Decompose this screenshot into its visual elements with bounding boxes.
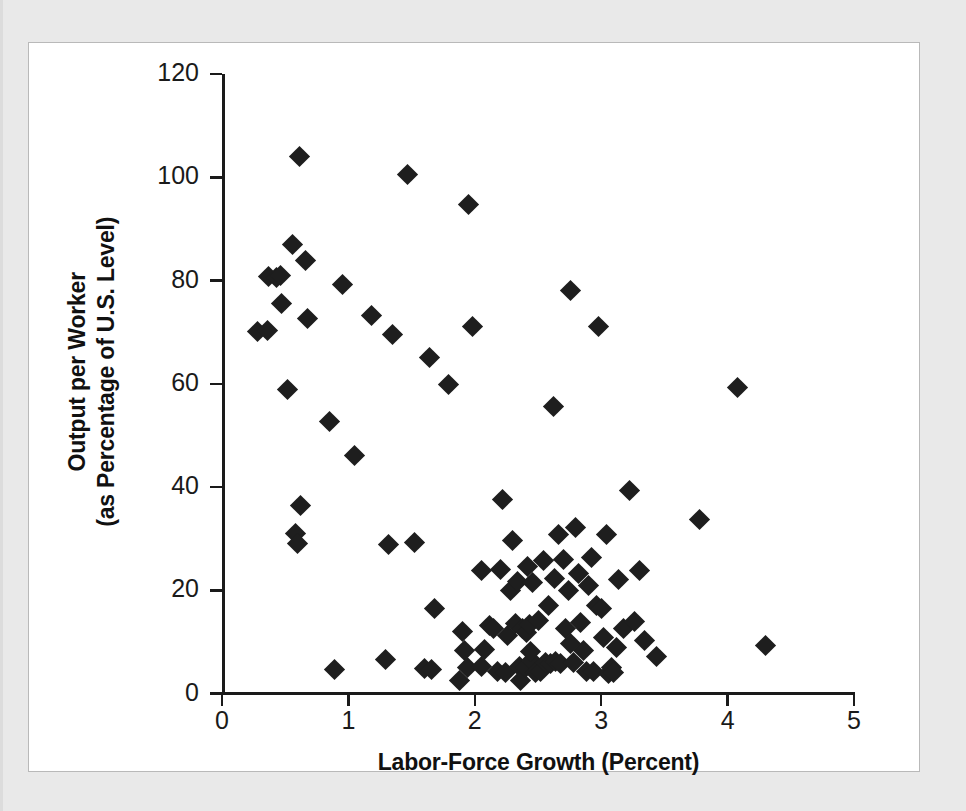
data-point bbox=[344, 445, 365, 466]
y-axis-title-line-2: (as Percentage of U.S. Level) bbox=[92, 112, 121, 632]
data-point bbox=[646, 646, 667, 667]
y-tick-label-120: 120 bbox=[79, 60, 199, 85]
data-point bbox=[588, 316, 609, 337]
data-point bbox=[324, 659, 345, 680]
x-tick-label-0: 0 bbox=[192, 708, 252, 733]
data-point bbox=[618, 479, 639, 500]
x-axis-line bbox=[222, 692, 855, 695]
data-point bbox=[288, 146, 309, 167]
x-tick-4 bbox=[726, 694, 729, 706]
y-tick-20 bbox=[210, 589, 222, 592]
data-point bbox=[397, 164, 418, 185]
data-point bbox=[295, 250, 316, 271]
data-point bbox=[755, 635, 776, 656]
y-axis-title-line-1: Output per Worker bbox=[63, 112, 92, 632]
data-point bbox=[271, 293, 292, 314]
data-point bbox=[580, 547, 601, 568]
data-point bbox=[474, 638, 495, 659]
data-point bbox=[319, 411, 340, 432]
data-point bbox=[277, 379, 298, 400]
data-point bbox=[608, 569, 629, 590]
data-point bbox=[489, 559, 510, 580]
x-axis-title: Labor-Force Growth (Percent) bbox=[222, 749, 855, 776]
data-point bbox=[471, 560, 492, 581]
scatter-plot: 020406080100120 012345 Labor-Force Growt… bbox=[29, 43, 921, 773]
data-point bbox=[629, 560, 650, 581]
y-tick-100 bbox=[210, 176, 222, 179]
data-point bbox=[361, 304, 382, 325]
data-point bbox=[596, 524, 617, 545]
y-tick-120 bbox=[210, 73, 222, 76]
x-tick-label-5: 5 bbox=[824, 708, 884, 733]
data-point bbox=[452, 621, 473, 642]
x-tick-2 bbox=[474, 694, 477, 706]
chart-card: 020406080100120 012345 Labor-Force Growt… bbox=[28, 42, 920, 772]
data-point bbox=[331, 274, 352, 295]
data-point bbox=[419, 347, 440, 368]
y-tick-80 bbox=[210, 279, 222, 282]
y-axis-line bbox=[222, 74, 225, 694]
x-tick-5 bbox=[853, 694, 856, 706]
x-tick-0 bbox=[221, 694, 224, 706]
y-tick-label-0: 0 bbox=[79, 680, 199, 705]
data-point bbox=[462, 316, 483, 337]
x-tick-3 bbox=[600, 694, 603, 706]
data-point bbox=[558, 580, 579, 601]
x-tick-label-4: 4 bbox=[698, 708, 758, 733]
y-axis-title: Output per Worker (as Percentage of U.S.… bbox=[63, 112, 121, 632]
data-point bbox=[404, 532, 425, 553]
y-tick-40 bbox=[210, 486, 222, 489]
data-point bbox=[553, 549, 574, 570]
data-point bbox=[297, 308, 318, 329]
data-point bbox=[458, 193, 479, 214]
data-point bbox=[374, 649, 395, 670]
data-point bbox=[727, 377, 748, 398]
x-tick-label-3: 3 bbox=[571, 708, 631, 733]
data-point bbox=[492, 489, 513, 510]
page-left-edge-rule bbox=[0, 0, 3, 811]
x-tick-label-1: 1 bbox=[318, 708, 378, 733]
data-point bbox=[634, 630, 655, 651]
figure-root: 020406080100120 012345 Labor-Force Growt… bbox=[0, 0, 966, 811]
x-tick-label-2: 2 bbox=[445, 708, 505, 733]
data-point bbox=[290, 495, 311, 516]
data-point bbox=[382, 324, 403, 345]
data-point bbox=[282, 234, 303, 255]
x-tick-1 bbox=[347, 694, 350, 706]
data-point bbox=[502, 530, 523, 551]
data-point bbox=[424, 598, 445, 619]
y-tick-60 bbox=[210, 383, 222, 386]
data-point bbox=[543, 396, 564, 417]
data-point bbox=[438, 374, 459, 395]
data-point bbox=[689, 508, 710, 529]
data-point bbox=[378, 534, 399, 555]
data-point bbox=[560, 280, 581, 301]
